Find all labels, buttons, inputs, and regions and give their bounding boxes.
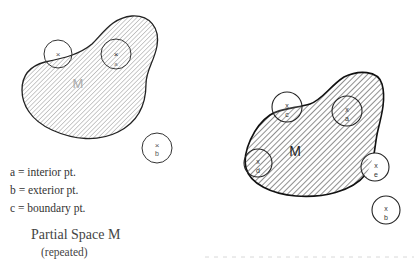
point-mark-a: x [345,106,349,113]
partial-space-diagram: × × a M × b x c x a x d x e x b M [0,0,414,262]
point-label-c: c [285,111,289,118]
space-m-region-left [22,16,158,139]
space-label-m-right: M [289,143,301,159]
legend: a = interior pt. b = exterior pt. c = bo… [10,163,85,217]
point-mark-e: x [374,162,378,169]
point-mark-d: x [256,158,260,165]
space-label-m-left: M [73,76,84,91]
legend-item-boundary: c = boundary pt. [10,199,85,217]
caption-title: Partial Space M [31,227,120,243]
legend-item-interior: a = interior pt. [10,163,85,181]
point-label-d: d [256,167,260,174]
point-mark-a: × [114,50,119,59]
left-figure: × × a M × b [22,16,172,163]
legend-item-exterior: b = exterior pt. [10,181,85,199]
point-label-b: b [384,214,388,221]
point-mark-c: × [56,50,61,59]
space-m-region-right [245,72,383,196]
point-mark-b: × [155,141,160,150]
point-label-b: b [155,150,159,157]
caption-subtitle: (repeated) [41,246,88,258]
right-figure: x c x a x d x e x b M [205,72,414,257]
point-label-e: e [374,171,378,178]
point-label-a: a [345,115,349,122]
point-mark-c: x [285,102,289,109]
point-mark-b: x [384,205,388,212]
